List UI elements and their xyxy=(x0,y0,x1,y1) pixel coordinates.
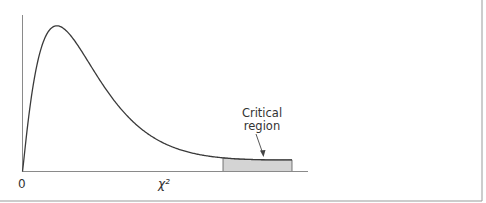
chi-square-diagram: 0 χ² Critical region xyxy=(0,0,486,203)
x-axis-label: χ² xyxy=(157,177,170,191)
density-curve xyxy=(23,26,293,172)
annotation-line-1: Critical xyxy=(242,106,282,120)
annotation-line-2: region xyxy=(244,119,280,133)
x-tick-zero: 0 xyxy=(18,177,26,191)
arrow-head xyxy=(260,150,266,157)
